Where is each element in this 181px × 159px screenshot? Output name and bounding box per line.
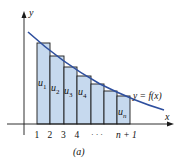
bar-4 [77, 76, 91, 124]
tick-labels: 1 2 3 4 · · · n + 1 [35, 130, 137, 141]
bar-6 [104, 91, 117, 124]
y-axis-label: y [28, 7, 34, 18]
tick-label-1: 1 [35, 130, 40, 140]
curve-label: y = f(x) [132, 91, 162, 102]
x-axis-arrow-icon [167, 122, 174, 127]
tick-label-2: 2 [48, 130, 53, 140]
tick-label-4: 4 [75, 130, 80, 140]
tick-label-3: 3 [61, 130, 66, 140]
figure-caption: (a) [73, 146, 85, 158]
riemann-sum-diagram: y x y = f(x) u1 u2 u3 u4 un 1 2 3 4 · · … [0, 0, 181, 159]
tick-label-ellipsis: · · · [91, 130, 103, 139]
x-axis-label: x [164, 111, 170, 122]
y-axis-arrow-icon [22, 11, 27, 18]
bar-5 [91, 84, 104, 124]
tick-label-n-plus-1: n + 1 [116, 130, 137, 140]
